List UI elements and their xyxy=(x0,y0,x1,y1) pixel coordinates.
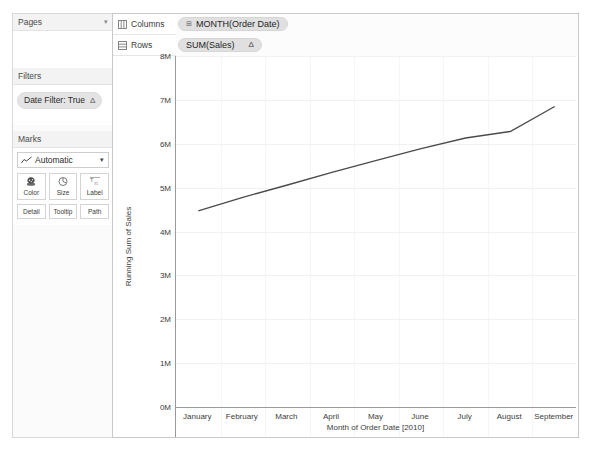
marks-size-button[interactable]: Size xyxy=(49,173,78,200)
filters-card: Filters Date Filter: True Δ xyxy=(13,68,113,125)
size-gauge-icon xyxy=(56,175,70,188)
marks-detail-label: Detail xyxy=(23,208,40,216)
marks-tooltip-button[interactable]: Tooltip xyxy=(49,204,78,219)
worksheet-area: Columns ⊞ MONTH(Order Date) Rows xyxy=(112,13,579,438)
marks-buttons-row-1: Color Size xyxy=(17,173,109,200)
pill-month-order-date[interactable]: ⊞ MONTH(Order Date) xyxy=(178,17,288,31)
pill-sum-sales[interactable]: SUM(Sales) Δ xyxy=(178,38,262,52)
pages-drop-zone[interactable] xyxy=(13,31,113,71)
marks-color-label: Color xyxy=(24,189,40,197)
x-tick-september: September xyxy=(534,412,573,421)
columns-drop-zone[interactable]: ⊞ MONTH(Order Date) xyxy=(176,14,578,35)
marks-label-label: Label xyxy=(87,189,103,197)
y-tick-3M: 3M xyxy=(160,271,175,280)
filter-pill-date-filter[interactable]: Date Filter: True Δ xyxy=(17,92,102,109)
x-tick-february: February xyxy=(226,412,258,421)
rows-drop-zone[interactable]: SUM(Sales) Δ xyxy=(176,35,578,56)
marks-card: Marks Automatic ▾ xyxy=(13,131,113,225)
x-tick-may: May xyxy=(368,412,383,421)
rows-icon xyxy=(118,41,127,50)
y-tick-6M: 6M xyxy=(160,139,175,148)
columns-shelf-label-group: Columns xyxy=(118,19,176,29)
marks-card-title: Marks xyxy=(18,134,41,144)
y-tick-7M: 7M xyxy=(160,95,175,104)
marks-color-button[interactable]: Color xyxy=(17,173,46,200)
columns-shelf-title: Columns xyxy=(131,19,165,29)
y-tick-1M: 1M xyxy=(160,359,175,368)
color-palette-icon xyxy=(24,175,38,188)
tableau-worksheet: Pages ▾ Filters Date Filter: True Δ Mark… xyxy=(0,0,591,458)
marks-card-body: Automatic ▾ xyxy=(13,148,113,225)
delta-icon: Δ xyxy=(90,95,95,106)
marks-path-button[interactable]: Path xyxy=(80,204,109,219)
filters-card-title: Filters xyxy=(18,71,41,81)
filters-drop-zone[interactable]: Date Filter: True Δ xyxy=(13,85,113,125)
marks-label-button[interactable]: T xt Label xyxy=(80,173,109,200)
filter-pill-label: Date Filter: True xyxy=(24,95,85,106)
pages-card-title: Pages xyxy=(18,17,42,27)
filters-card-header: Filters xyxy=(13,68,113,85)
x-tick-july: July xyxy=(457,412,471,421)
x-tick-june: June xyxy=(411,412,428,421)
rows-shelf-label-group: Rows xyxy=(118,40,176,50)
x-tick-march: March xyxy=(275,412,297,421)
mark-type-select[interactable]: Automatic ▾ xyxy=(17,152,109,168)
pill-month-order-date-label: MONTH(Order Date) xyxy=(196,17,280,31)
y-axis-tick-labels: 0M1M2M3M4M5M6M7M8M xyxy=(135,56,175,437)
marks-detail-button[interactable]: Detail xyxy=(17,204,46,219)
left-shelf-panel: Pages ▾ Filters Date Filter: True Δ Mark… xyxy=(12,13,112,438)
marks-tooltip-label: Tooltip xyxy=(54,208,73,216)
pages-card-header[interactable]: Pages ▾ xyxy=(13,14,113,31)
marks-card-header: Marks xyxy=(13,131,113,148)
delta-icon: Δ xyxy=(249,38,254,52)
pill-sum-sales-label: SUM(Sales) xyxy=(186,38,235,52)
marks-buttons-row-2: Detail Tooltip Path xyxy=(17,204,109,219)
marks-size-label: Size xyxy=(57,189,70,197)
rows-shelf: Rows SUM(Sales) Δ xyxy=(113,35,578,56)
mark-type-value: Automatic xyxy=(35,155,73,165)
plot-panel xyxy=(175,56,576,437)
y-tick-0M: 0M xyxy=(160,403,175,412)
y-tick-2M: 2M xyxy=(160,315,175,324)
x-tick-january: January xyxy=(183,412,211,421)
y-axis-title-text: Running Sum of Sales xyxy=(125,207,134,287)
line-chart-icon xyxy=(21,156,32,165)
line-series xyxy=(176,56,577,407)
y-axis-title: Running Sum of Sales xyxy=(123,56,135,437)
y-tick-4M: 4M xyxy=(160,227,175,236)
running-sum-line xyxy=(198,107,554,211)
chevron-down-icon[interactable]: ▾ xyxy=(104,18,108,25)
pages-card: Pages ▾ xyxy=(13,14,113,71)
expand-plus-icon[interactable]: ⊞ xyxy=(186,17,192,31)
x-tick-august: August xyxy=(497,412,522,421)
x-tick-april: April xyxy=(323,412,339,421)
chart-canvas: Running Sum of Sales 0M1M2M3M4M5M6M7M8M … xyxy=(113,56,578,437)
y-tick-8M: 8M xyxy=(160,52,175,61)
x-axis-title: Month of Order Date [2010] xyxy=(175,423,576,432)
chevron-down-icon[interactable]: ▾ xyxy=(100,156,104,164)
x-axis: Month of Order Date [2010] JanuaryFebrua… xyxy=(175,407,576,437)
rows-shelf-title: Rows xyxy=(131,40,152,50)
columns-shelf: Columns ⊞ MONTH(Order Date) xyxy=(113,14,578,35)
marks-path-label: Path xyxy=(88,208,101,216)
label-text-icon: T xt xyxy=(88,175,102,188)
svg-text:xt: xt xyxy=(94,180,99,186)
columns-icon xyxy=(118,20,127,29)
y-tick-5M: 5M xyxy=(160,183,175,192)
